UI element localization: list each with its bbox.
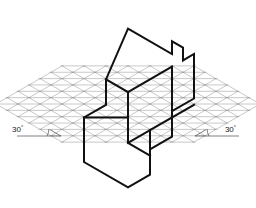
grid-line	[62, 85, 73, 91]
grid-line	[106, 91, 117, 97]
grid-line	[73, 79, 84, 85]
grid-line	[194, 136, 205, 142]
stepped-block-solid	[84, 29, 194, 188]
grid-line	[62, 123, 73, 129]
grid-line	[62, 72, 73, 78]
grid-line	[139, 72, 150, 78]
grid-line	[216, 91, 227, 97]
angle-arc	[207, 129, 209, 136]
grid-line	[95, 66, 106, 72]
angle-leader-line	[17, 130, 61, 136]
grid-line	[73, 110, 84, 116]
grid-line	[161, 129, 172, 135]
grid-line	[95, 123, 106, 129]
grid-line	[172, 91, 183, 97]
grid-line	[106, 129, 117, 135]
grid-line	[216, 104, 227, 110]
grid-line	[84, 129, 95, 135]
grid-line	[29, 117, 40, 123]
grid-line	[18, 91, 29, 97]
isometric-figure: 30°30°	[0, 0, 256, 208]
grid-line	[139, 117, 150, 123]
grid-line	[139, 123, 150, 129]
grid-line	[18, 110, 29, 116]
grid-line	[150, 66, 161, 72]
grid-line	[249, 98, 256, 104]
grid-line	[29, 98, 40, 104]
grid-line	[95, 72, 106, 78]
grid-line	[7, 110, 18, 116]
grid-line	[95, 129, 106, 135]
grid-line	[227, 85, 238, 91]
angle-label-text: 30°	[225, 124, 236, 134]
grid-line	[51, 123, 62, 129]
grid-line	[106, 123, 117, 129]
grid-line	[62, 117, 73, 123]
grid-line	[62, 129, 73, 135]
grid-line	[51, 129, 62, 135]
grid-line	[161, 79, 172, 85]
grid-line	[194, 91, 205, 97]
grid-line	[84, 91, 95, 97]
grid-line	[62, 79, 73, 85]
grid-line	[139, 98, 150, 104]
grid-line	[216, 79, 227, 85]
grid-line	[194, 79, 205, 85]
grid-line	[29, 85, 40, 91]
grid-line	[95, 136, 106, 142]
grid-line	[194, 123, 205, 129]
grid-line	[194, 110, 205, 116]
grid-line	[106, 104, 117, 110]
grid-line	[216, 85, 227, 91]
grid-line	[106, 136, 117, 142]
grid-line	[150, 85, 161, 91]
grid-line	[183, 85, 194, 91]
grid-line	[172, 85, 183, 91]
grid-line	[29, 110, 40, 116]
grid-line	[29, 104, 40, 110]
grid-line	[18, 104, 29, 110]
grid-line	[227, 117, 238, 123]
grid-line	[172, 98, 183, 104]
grid-line	[51, 66, 62, 72]
grid-line	[205, 129, 216, 135]
grid-line	[205, 104, 216, 110]
grid-line	[40, 129, 51, 135]
grid-line	[194, 85, 205, 91]
grid-line	[51, 79, 62, 85]
grid-line	[51, 136, 62, 142]
grid-line	[51, 98, 62, 104]
grid-line	[106, 98, 117, 104]
grid-line	[128, 72, 139, 78]
grid-line	[73, 66, 84, 72]
grid-line	[73, 123, 84, 129]
grid-line	[238, 110, 249, 116]
grid-line	[117, 79, 128, 85]
grid-line	[73, 98, 84, 104]
grid-line	[117, 72, 128, 78]
grid-line	[117, 104, 128, 110]
grid-line	[227, 104, 238, 110]
grid-line	[194, 98, 205, 104]
grid-line	[40, 72, 51, 78]
grid-line	[161, 110, 172, 116]
grid-line	[84, 72, 95, 78]
grid-line	[128, 66, 139, 72]
angle-label-text: 30°	[12, 124, 23, 134]
drawing-canvas: 30°30°	[0, 0, 256, 208]
grid-line	[150, 91, 161, 97]
grid-line	[172, 72, 183, 78]
grid-line	[172, 136, 183, 142]
grid-line	[117, 136, 128, 142]
grid-line	[161, 104, 172, 110]
grid-line	[205, 79, 216, 85]
grid-line	[51, 85, 62, 91]
grid-line	[183, 91, 194, 97]
grid-line	[172, 123, 183, 129]
grid-line	[205, 72, 216, 78]
grid-line	[84, 123, 95, 129]
grid-line	[128, 110, 139, 116]
grid-line	[150, 110, 161, 116]
grid-line	[205, 117, 216, 123]
grid-line	[84, 79, 95, 85]
